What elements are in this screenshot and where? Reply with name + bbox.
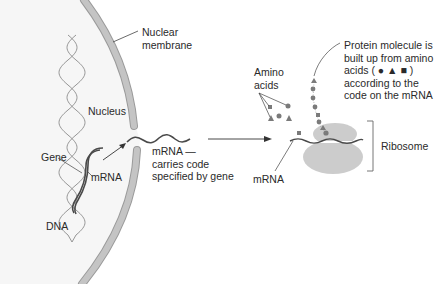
- label-protein-molecule: Protein molecule is built up from amino …: [344, 39, 433, 102]
- label-amino-acids-line2: acids: [254, 79, 284, 92]
- label-mrna-carries-line2: carries code: [152, 158, 234, 171]
- ribosome-large-subunit: [303, 140, 363, 174]
- label-nuclear-membrane: Nuclear membrane: [142, 26, 192, 51]
- label-protein-line1: Protein molecule is: [344, 39, 433, 52]
- label-dna: DNA: [46, 220, 68, 233]
- label-mrna-carries-line3: specified by gene: [152, 170, 234, 183]
- label-amino-acids-line1: Amino: [254, 66, 284, 79]
- label-protein-line4: according to the: [344, 77, 433, 90]
- label-protein-line5: code on the mRNA: [344, 89, 433, 102]
- label-protein-line3: acids ( ● ▲ ■ ): [344, 64, 433, 77]
- label-nuclear-membrane-line1: Nuclear: [142, 26, 192, 39]
- label-mrna-nucleus: mRNA: [91, 171, 122, 184]
- amino-acid-leaders: [259, 93, 286, 117]
- label-mrna-carries-line1: mRNA —: [152, 145, 234, 158]
- label-nucleus: Nucleus: [88, 105, 126, 118]
- free-amino-acids: [268, 104, 301, 136]
- label-amino-acids: Amino acids: [254, 66, 284, 91]
- label-ribosome: Ribosome: [381, 140, 428, 153]
- label-protein-line2: built up from amino: [344, 52, 433, 65]
- protein-leader-line: [314, 43, 340, 76]
- nucleus-region: [0, 0, 140, 284]
- membrane-leader-line: [113, 31, 138, 42]
- label-nuclear-membrane-line2: membrane: [142, 39, 192, 52]
- label-mrna-carries-code: mRNA — carries code specified by gene: [152, 145, 234, 183]
- ribosome-mrna-leader: [275, 141, 293, 171]
- label-mrna-ribosome: mRNA: [253, 173, 284, 186]
- label-gene: Gene: [41, 151, 67, 164]
- ribosome-bracket: [367, 121, 373, 171]
